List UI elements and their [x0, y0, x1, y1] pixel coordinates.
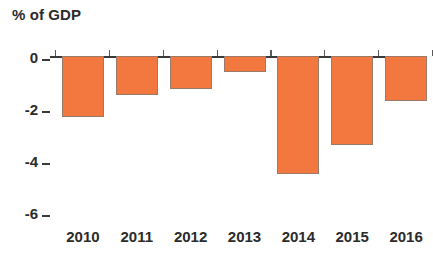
axis-minor-tick — [109, 50, 110, 56]
y-axis-tick-dash-1 — [42, 111, 50, 113]
y-axis-tick-label-3: -6 — [25, 206, 38, 221]
y-axis-tick-1: -2 — [0, 100, 50, 118]
axis-minor-tick — [270, 50, 271, 56]
y-axis-tick-dash-3 — [42, 215, 50, 217]
bar-2012 — [170, 56, 212, 89]
plot-area — [50, 30, 427, 220]
x-axis-tick-label-2013: 2013 — [218, 228, 272, 245]
bar-2015 — [331, 56, 373, 145]
bar-2013 — [224, 56, 266, 72]
axis-minor-tick — [217, 50, 218, 56]
y-axis: 0 -2 -4 -6 — [0, 0, 50, 254]
x-axis-tick-label-2010: 2010 — [56, 228, 110, 245]
bar-2016 — [385, 56, 427, 101]
bar-2011 — [116, 56, 158, 95]
y-axis-tick-dash-2 — [42, 163, 50, 165]
axis-minor-tick — [324, 50, 325, 56]
x-axis-tick-label-2016: 2016 — [379, 228, 433, 245]
y-axis-tick-dash-0 — [42, 59, 50, 61]
y-axis-tick-label-0: 0 — [30, 50, 38, 65]
x-axis-tick-label-2011: 2011 — [110, 228, 164, 245]
y-axis-tick-label-2: -4 — [25, 154, 38, 169]
axis-minor-tick — [378, 50, 379, 56]
axis-minor-tick — [55, 50, 56, 56]
x-axis-tick-label-2012: 2012 — [164, 228, 218, 245]
y-axis-tick-3: -6 — [0, 204, 50, 222]
y-axis-tick-label-1: -2 — [25, 102, 38, 117]
bar-2014 — [277, 56, 319, 174]
x-axis-tick-label-2015: 2015 — [325, 228, 379, 245]
y-axis-tick-0: 0 — [0, 48, 50, 66]
x-axis: 2010201120122013201420152016 — [50, 228, 427, 252]
bar-2010 — [62, 56, 104, 117]
y-axis-tick-2: -4 — [0, 152, 50, 170]
x-axis-tick-label-2014: 2014 — [271, 228, 325, 245]
axis-minor-tick — [163, 50, 164, 56]
